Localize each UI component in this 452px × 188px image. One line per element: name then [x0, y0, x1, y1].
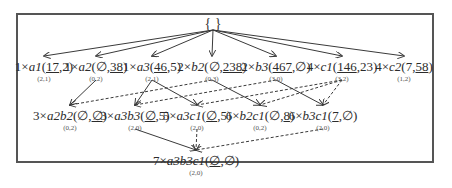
node-label: 6×b3c1(7,∅): [289, 108, 358, 123]
node-support: (2,1): [123, 76, 181, 83]
node-support: (3,2): [307, 76, 378, 83]
node-c2: 4×c2(7,58)(1,2): [375, 58, 433, 83]
solid-edge-a3b3-a3b3c1: [135, 129, 196, 150]
dashed-edge-c1-b3c1: [323, 80, 342, 105]
node-label: 1×a2(∅,38): [65, 59, 128, 74]
solid-edge-root-a1: [44, 30, 213, 56]
node-b3c1: 6×b3c1(7,∅)(2,0): [289, 107, 358, 132]
solid-edge-root-b2: [212, 30, 213, 56]
node-support: (1,2): [375, 76, 433, 83]
node-label: 2×b3(467,∅): [241, 59, 310, 74]
node-support: (2,0): [289, 125, 358, 132]
node-a3b3c1: 7×a3b3c1(∅,∅)(2,0): [153, 152, 239, 177]
solid-edge-b3-b3c1: [276, 80, 323, 105]
node-label: 4×c2(7,58): [375, 59, 433, 74]
node-support: (0,2): [65, 76, 128, 83]
node-b3: 2×b3(467,∅)(3,0): [241, 58, 310, 83]
node-support: (2,0): [163, 125, 232, 132]
node-a2: 1×a2(∅,38)(0,2): [65, 58, 128, 83]
node-a3: 1×a3(46,5)(2,1): [123, 58, 181, 83]
node-label: 3×a2b2(∅,∅): [33, 108, 107, 123]
solid-edge-a3-a3b3: [135, 80, 152, 105]
node-support: (0,2): [33, 125, 107, 132]
node-support: (2,0): [153, 170, 239, 177]
node-label: 6×b2c1(∅,8): [226, 108, 295, 123]
node-b2c1: 6×b2c1(∅,8)(0,2): [226, 107, 295, 132]
node-support: (3,0): [241, 76, 310, 83]
solid-edge-root-c1: [213, 30, 342, 56]
node-a3b3: 3×a3b3(∅,5)(2,0): [100, 107, 169, 132]
node-a3c1: 5×a3c1(∅,5)(2,0): [163, 107, 232, 132]
node-support: (0,3): [177, 76, 246, 83]
node-c1: 4×c1(146,23)(3,2): [307, 58, 378, 83]
solid-edge-root-c2: [213, 30, 404, 56]
node-label: 5×a3c1(∅,5): [163, 108, 232, 123]
dashed-edge-a3c1-a3b3c1: [196, 129, 197, 150]
dashed-edge-b3c1-a3b3c1: [196, 129, 323, 150]
root-label: { }: [205, 16, 222, 31]
solid-edge-b2-b2c1: [212, 80, 260, 105]
node-label: 7×a3b3c1(∅,∅): [153, 153, 239, 168]
node-b2: 2×b2(∅,238)(0,3): [177, 58, 246, 83]
node-support: (2,0): [100, 125, 169, 132]
node-label: 3×a3b3(∅,5): [100, 108, 169, 123]
solid-edge-root-a2: [96, 30, 213, 56]
solid-edge-root-a3: [152, 30, 213, 56]
dashed-edge-b3-a3b3: [135, 80, 276, 105]
node-label: 2×b2(∅,238): [177, 59, 246, 74]
root-node: { }: [205, 16, 222, 32]
node-label: 4×c1(146,23): [307, 59, 378, 74]
node-a2b2: 3×a2b2(∅,∅)(0,2): [33, 107, 107, 132]
node-support: (0,2): [226, 125, 295, 132]
node-label: 1×a3(46,5): [123, 59, 181, 74]
